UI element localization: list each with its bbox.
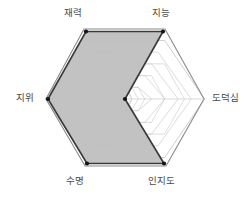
data-point-injido: [162, 161, 166, 165]
axis-label-dodeoksim: 도덕심: [212, 93, 240, 103]
axis-label-injido: 인지도: [148, 176, 176, 186]
data-point-sumyeong: [85, 161, 89, 165]
axis-label-jiwi: 지위: [16, 93, 34, 103]
data-point-jineung: [161, 29, 165, 33]
axis-label-sumyeong: 수명: [66, 176, 84, 186]
radar-chart-figure: 재력 지능 도덕심 인지도 수명 지위: [0, 0, 251, 199]
axis-label-jineung: 지능: [152, 8, 170, 18]
data-point-jiwi: [46, 97, 50, 101]
data-point-dodeoksim: [123, 97, 127, 101]
data-point-jaeryeok: [84, 29, 88, 33]
data-polygon: [48, 32, 164, 164]
axis-label-jaeryeok: 재력: [64, 8, 82, 18]
